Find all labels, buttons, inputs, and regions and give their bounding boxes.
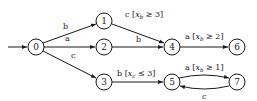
svg-text:5: 5 xyxy=(169,77,175,87)
state-node-7: 7 xyxy=(229,74,245,90)
state-node-5: 5 xyxy=(164,74,180,90)
svg-text:1: 1 xyxy=(101,16,107,26)
svg-text:c [xb ≥ 3]: c [xb ≥ 3] xyxy=(125,10,163,20)
edge-5-7 xyxy=(179,75,229,78)
state-node-4: 4 xyxy=(164,39,180,55)
edge-label-2-4: b xyxy=(136,35,141,44)
state-node-0: 0 xyxy=(28,39,44,55)
edge-label-0-2: a xyxy=(65,34,70,43)
edge-label-5-7: a [xb ≥ 1] xyxy=(185,63,224,73)
state-node-3: 3 xyxy=(96,74,112,90)
state-diagram: b a c c [xb ≥ 3] b b [xc ≤ 3] a [xb ≥ 2]… xyxy=(0,0,257,101)
state-node-2: 2 xyxy=(96,39,112,55)
svg-text:a [xb ≥ 2]: a [xb ≥ 2] xyxy=(185,32,224,42)
svg-text:b [xc ≤ 3]: b [xc ≤ 3] xyxy=(117,69,155,79)
edge-label-1-4: c [xb ≥ 3] xyxy=(125,10,163,20)
edge-label-0-1: b xyxy=(63,22,68,31)
svg-text:6: 6 xyxy=(234,42,240,52)
svg-text:2: 2 xyxy=(101,42,107,52)
svg-text:3: 3 xyxy=(101,77,107,87)
edge-label-7-5: c xyxy=(202,92,207,101)
svg-text:a [xb ≥ 1]: a [xb ≥ 1] xyxy=(185,63,224,73)
edge-label-3-5: b [xc ≤ 3] xyxy=(117,69,155,79)
svg-text:0: 0 xyxy=(33,42,39,52)
state-node-1: 1 xyxy=(96,13,112,29)
edge-7-5 xyxy=(180,86,229,89)
state-node-6: 6 xyxy=(229,39,245,55)
edge-label-4-6: a [xb ≥ 2] xyxy=(185,32,224,42)
edge-0-3 xyxy=(43,51,96,78)
edge-label-0-3: c xyxy=(71,51,76,60)
svg-text:4: 4 xyxy=(169,42,175,52)
svg-text:7: 7 xyxy=(234,77,240,87)
